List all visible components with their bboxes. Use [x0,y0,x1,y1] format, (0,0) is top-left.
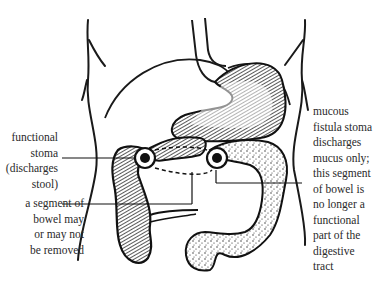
esophagus [192,18,226,82]
label-line: mucus only; [313,151,388,167]
label-line: tract [313,259,388,275]
label-line: mucous [313,104,388,120]
mucous-fistula-stoma [207,148,227,168]
label-line: of bowel is [313,182,388,198]
label-line: fistula stoma [313,120,388,136]
functional-stoma [135,148,155,168]
label-line: this segment [313,166,388,182]
label-line: functional [0,130,58,146]
label-removed-segment: a segment of bowel may or may not be rem… [0,196,84,258]
label-line: discharges [313,135,388,151]
label-line: bowel may [0,212,84,228]
label-line: no longer a [313,197,388,213]
label-line: be removed [0,243,84,259]
label-line: or may not [0,227,84,243]
label-line: stool) [0,177,58,193]
label-line: stoma [0,146,58,162]
label-mucous-fistula: mucous fistula stoma discharges mucus on… [313,104,388,275]
label-line: part of the [313,228,388,244]
label-line: digestive [313,244,388,260]
descending-colon [186,140,287,270]
label-line: (discharges [0,161,58,177]
label-functional-stoma: functional stoma (discharges stool) [0,130,58,192]
label-line: a segment of [0,196,84,212]
label-line: functional [313,213,388,229]
